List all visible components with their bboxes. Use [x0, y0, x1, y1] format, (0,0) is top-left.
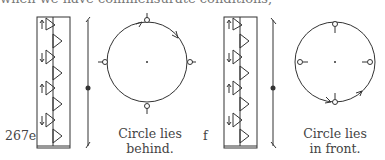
caption-e-line1: Circle lies [110, 126, 190, 141]
figure-e-id: 267e [5, 128, 36, 143]
figure-f-id: f [203, 128, 208, 143]
caption-f-line2: in front. [295, 141, 375, 156]
strip-e [37, 17, 70, 148]
caption-e-line2: behind. [110, 141, 190, 156]
figure-e-caption: Circle lies behind. [110, 126, 190, 156]
caption-f-line1: Circle lies [295, 126, 375, 141]
strip-f [224, 17, 257, 148]
figure-f-caption: Circle lies in front. [295, 126, 375, 156]
